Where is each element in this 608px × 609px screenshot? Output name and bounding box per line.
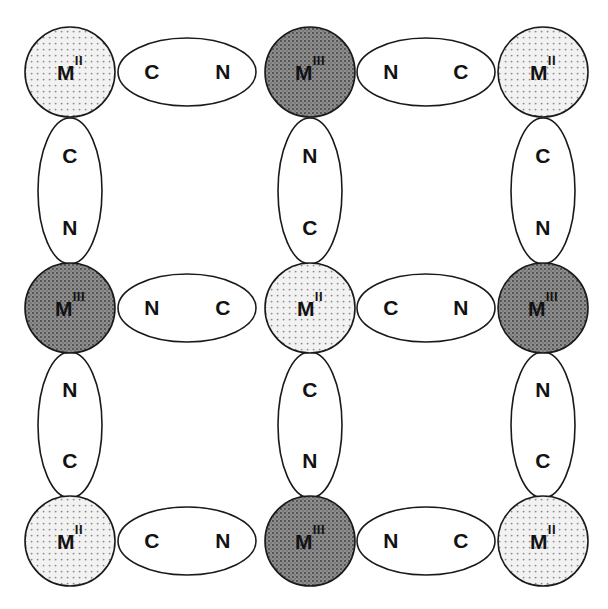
horizontal-bridge-h-r1-c0	[118, 274, 256, 342]
metal-node-m-r2-c0	[25, 496, 115, 586]
metal-node-m-r1-c0	[25, 263, 115, 353]
metal-node-m-r0-c1	[265, 27, 355, 117]
vertical-bridge-v-c0-r1	[38, 352, 102, 498]
metal-node-m-r2-c2	[498, 496, 588, 586]
vertical-bridge-v-c1-r0	[278, 118, 342, 264]
metal-node-group	[25, 27, 588, 586]
metal-node-m-r2-c1	[265, 496, 355, 586]
horizontal-bridge-h-r1-c1	[357, 274, 495, 342]
horizontal-bridge-h-r0-c0	[118, 38, 256, 106]
lattice-diagram: CNNCCNNCCNNCCNNCNCCNCNNCMIIMIIIMIIMIIIMI…	[0, 0, 608, 609]
vertical-bridge-v-c2-r1	[511, 352, 575, 498]
metal-node-m-r0-c0	[25, 27, 115, 117]
metal-node-m-r1-c2	[498, 263, 588, 353]
vertical-bridge-v-c2-r0	[511, 118, 575, 264]
horizontal-bridge-h-r2-c1	[357, 507, 495, 575]
horizontal-bridge-h-r0-c1	[357, 38, 495, 106]
vertical-bridge-v-c0-r0	[38, 118, 102, 264]
vertical-bridge-v-c1-r1	[278, 352, 342, 498]
horizontal-bridge-h-r2-c0	[118, 507, 256, 575]
diagram-canvas	[0, 0, 608, 609]
metal-node-m-r0-c2	[498, 27, 588, 117]
metal-node-m-r1-c1	[265, 263, 355, 353]
